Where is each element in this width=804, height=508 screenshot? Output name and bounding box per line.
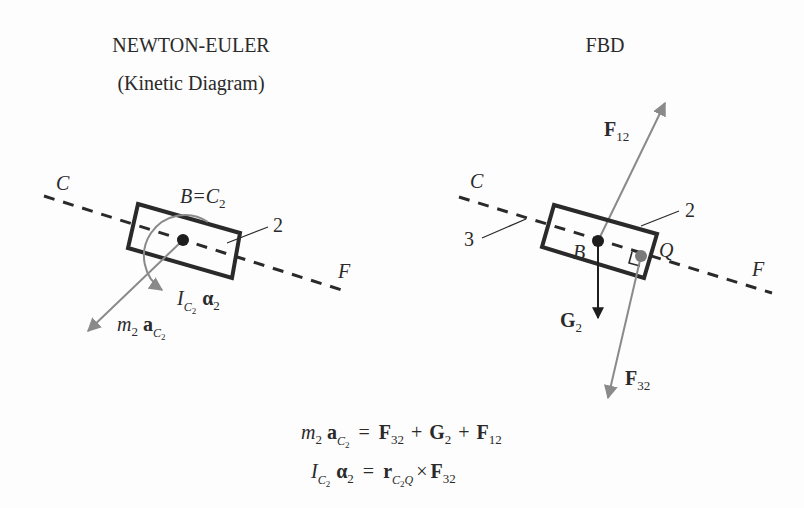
left-guide-line-cf (44, 196, 345, 291)
left-subtitle: (Kinetic Diagram) (117, 72, 264, 95)
equation-moment-balance: IC2α2=rC2Q×F32 (310, 460, 456, 489)
label-g2: G2 (560, 309, 582, 335)
right-label-c: C (470, 170, 484, 192)
label-f32: F32 (625, 367, 650, 393)
inertia-force-arrow-icon (88, 240, 183, 331)
point-b (592, 235, 604, 247)
point-q (635, 250, 647, 262)
label-inertia-force: m2aC2 (117, 313, 165, 342)
left-label-c: C (56, 172, 70, 194)
label-q: Q (659, 239, 674, 261)
right-label-f: F (751, 258, 765, 280)
right-title: FBD (586, 34, 625, 56)
left-point-c2 (177, 234, 189, 246)
right-label-body: 2 (685, 199, 695, 221)
label-moment-inertia: IC2α2 (176, 287, 220, 316)
moment-arc-icon (144, 215, 208, 290)
equation-force-balance: m2aC2=F32+G2+F12 (301, 421, 502, 450)
right-guide-line-cf (459, 197, 772, 293)
left-title: NEWTON-EULER (112, 34, 270, 56)
left-panel-kinetic-diagram: NEWTON-EULER (Kinetic Diagram) C F 2 B=C… (44, 34, 351, 342)
left-label-f: F (337, 260, 351, 282)
label-b: B (573, 241, 585, 263)
left-label-body: 2 (273, 214, 283, 236)
right-panel-fbd: FBD C F 3 F12 2 G2 F32 B Q (459, 34, 772, 398)
newton-euler-diagram: NEWTON-EULER (Kinetic Diagram) C F 2 B=C… (0, 0, 804, 508)
left-label-point: B=C2 (180, 185, 226, 211)
right-label-ground: 3 (464, 228, 474, 250)
equations: m2aC2=F32+G2+F12 IC2α2=rC2Q×F32 (301, 421, 502, 489)
label-f12: F12 (604, 118, 629, 144)
right-leader-body (641, 211, 679, 226)
right-leader-ground (482, 219, 526, 238)
